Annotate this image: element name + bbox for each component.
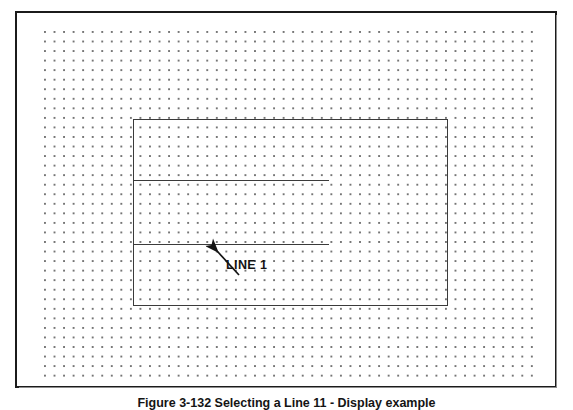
horizontal-line-upper[interactable] xyxy=(133,180,329,181)
figure-caption: Figure 3-132 Selecting a Line 11 - Displ… xyxy=(0,396,573,410)
line-annotation-label: LINE 1 xyxy=(226,258,267,272)
inner-rectangle[interactable] xyxy=(133,119,448,306)
cad-drawing-frame: LINE 1 xyxy=(15,11,557,388)
figure-page: LINE 1 Figure 3-132 Selecting a Line 11 … xyxy=(0,0,573,410)
horizontal-line-lower[interactable] xyxy=(133,244,329,245)
